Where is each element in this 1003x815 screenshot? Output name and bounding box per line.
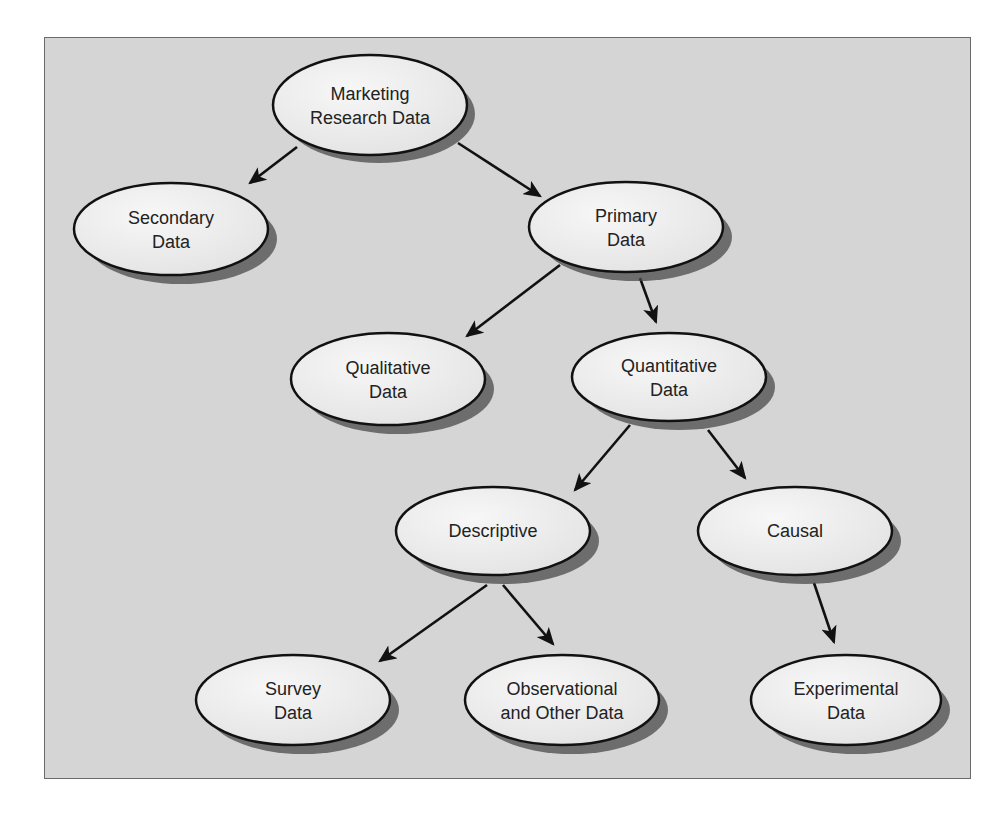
node-label: Causal <box>767 521 823 541</box>
node-label: and Other Data <box>500 703 624 723</box>
edge-primary-to-qualitative <box>467 265 560 336</box>
node-label: Experimental <box>793 679 898 699</box>
node-survey-data: Survey Data <box>196 655 399 754</box>
node-label: Data <box>274 703 313 723</box>
node-label: Primary <box>595 206 657 226</box>
node-label: Descriptive <box>448 521 537 541</box>
node-label: Marketing <box>330 84 409 104</box>
node-causal: Causal <box>698 487 901 584</box>
node-experimental-data: Experimental Data <box>751 655 950 754</box>
edge-marketing-to-primary <box>458 143 540 196</box>
edge-descriptive-to-survey <box>380 585 487 661</box>
edge-quantitative-to-causal <box>708 430 745 478</box>
node-secondary-data: Secondary Data <box>74 183 277 284</box>
node-qualitative-data: Qualitative Data <box>291 333 494 434</box>
node-label: Qualitative <box>345 358 430 378</box>
edge-primary-to-quantitative <box>640 278 656 322</box>
node-label: Survey <box>265 679 321 699</box>
node-label: Data <box>152 232 191 252</box>
node-label: Quantitative <box>621 356 717 376</box>
diagram-canvas: Marketing Research Data Secondary Data P… <box>0 0 1003 815</box>
edge-descriptive-to-observational <box>503 585 553 644</box>
node-label: Data <box>650 380 689 400</box>
node-label: Research Data <box>310 108 431 128</box>
node-label: Data <box>827 703 866 723</box>
node-observational-data: Observational and Other Data <box>465 655 668 754</box>
edge-quantitative-to-descriptive <box>575 425 630 490</box>
node-label: Observational <box>506 679 617 699</box>
node-quantitative-data: Quantitative Data <box>572 333 775 430</box>
edge-causal-to-experimental <box>814 583 834 642</box>
edge-marketing-to-secondary <box>250 147 297 183</box>
node-marketing-research-data: Marketing Research Data <box>273 55 475 163</box>
node-descriptive: Descriptive <box>396 487 599 584</box>
node-label: Data <box>607 230 646 250</box>
node-label: Secondary <box>128 208 214 228</box>
node-label: Data <box>369 382 408 402</box>
